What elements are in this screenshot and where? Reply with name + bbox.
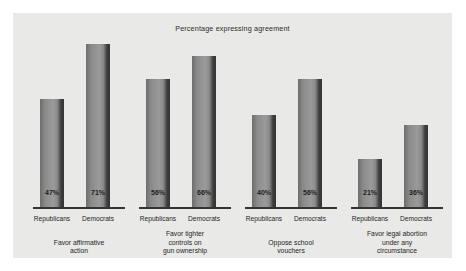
bar-slot: 56% <box>137 42 179 207</box>
group-baseline <box>33 207 125 209</box>
bar[interactable]: 56% <box>146 79 170 207</box>
bar[interactable]: 47% <box>40 99 64 207</box>
group-caption-line: Oppose school <box>237 239 345 248</box>
group-caption-line: Favor legal abortion <box>343 230 451 239</box>
bar-group: 47%71%RepublicansDemocratsFavor affirmat… <box>31 13 127 258</box>
group-caption-line: gun ownership <box>131 247 239 256</box>
party-axis-label: Republicans <box>137 215 179 222</box>
bar[interactable]: 40% <box>252 115 276 207</box>
group-baseline <box>351 207 443 209</box>
bar[interactable]: 21% <box>358 159 382 207</box>
chart-panel: Percentage expressing agreement 47%71%Re… <box>13 13 452 258</box>
bar-value-label: 56% <box>146 189 170 196</box>
bars-row: 40%56% <box>243 42 339 207</box>
bar[interactable]: 36% <box>404 125 428 207</box>
bar-slot: 66% <box>183 42 225 207</box>
group-baseline <box>139 207 231 209</box>
party-axis-label: Democrats <box>395 215 437 222</box>
bar-value-label: 56% <box>298 189 322 196</box>
bar-group: 40%56%RepublicansDemocratsOppose schoolv… <box>243 13 339 258</box>
bar-slot: 21% <box>349 42 391 207</box>
group-caption-line: vouchers <box>237 247 345 256</box>
bar-value-label: 47% <box>40 189 64 196</box>
party-label-row: RepublicansDemocrats <box>349 210 445 222</box>
bar-slot: 71% <box>77 42 119 207</box>
bar-value-label: 66% <box>192 189 216 196</box>
party-axis-label: Democrats <box>183 215 225 222</box>
bar-value-label: 36% <box>404 189 428 196</box>
group-caption: Oppose schoolvouchers <box>237 239 345 256</box>
group-caption-line: Favor affirmative <box>25 239 133 248</box>
party-axis-label: Republicans <box>349 215 391 222</box>
party-axis-label: Republicans <box>31 215 73 222</box>
bar[interactable]: 56% <box>298 79 322 207</box>
bar-value-label: 40% <box>252 189 276 196</box>
party-axis-label: Democrats <box>77 215 119 222</box>
party-label-row: RepublicansDemocrats <box>137 210 233 222</box>
bar-slot: 56% <box>289 42 331 207</box>
bar-slot: 40% <box>243 42 285 207</box>
group-baseline <box>245 207 337 209</box>
plot-area: 47%71%RepublicansDemocratsFavor affirmat… <box>13 13 452 258</box>
group-caption-line: under any <box>343 239 451 248</box>
bars-row: 47%71% <box>31 42 127 207</box>
bar-group: 56%66%RepublicansDemocratsFavor tighterc… <box>137 13 233 258</box>
group-caption: Favor legal abortionunder anycircumstanc… <box>343 230 451 256</box>
bars-row: 21%36% <box>349 42 445 207</box>
bars-row: 56%66% <box>137 42 233 207</box>
bar-slot: 47% <box>31 42 73 207</box>
group-caption: Favor affirmativeaction <box>25 239 133 256</box>
bar-value-label: 21% <box>358 189 382 196</box>
party-label-row: RepublicansDemocrats <box>31 210 127 222</box>
bar-value-label: 71% <box>86 189 110 196</box>
party-label-row: RepublicansDemocrats <box>243 210 339 222</box>
group-caption-line: circumstance <box>343 247 451 256</box>
party-axis-label: Democrats <box>289 215 331 222</box>
group-caption-line: controls on <box>131 239 239 248</box>
group-caption: Favor tightercontrols ongun ownership <box>131 230 239 256</box>
group-caption-line: action <box>25 247 133 256</box>
party-axis-label: Republicans <box>243 215 285 222</box>
bar[interactable]: 71% <box>86 44 110 207</box>
bar[interactable]: 66% <box>192 56 216 207</box>
bar-slot: 36% <box>395 42 437 207</box>
group-caption-line: Favor tighter <box>131 230 239 239</box>
bar-group: 21%36%RepublicansDemocratsFavor legal ab… <box>349 13 445 258</box>
